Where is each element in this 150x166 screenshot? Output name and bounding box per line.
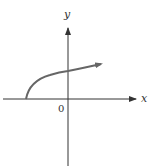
x-axis-label: x — [141, 92, 148, 105]
sqrt-curve — [26, 64, 101, 99]
origin-label: 0 — [58, 103, 64, 114]
graph: y x 0 — [0, 0, 150, 166]
y-axis-label: y — [63, 8, 71, 21]
